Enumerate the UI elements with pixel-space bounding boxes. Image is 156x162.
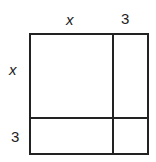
side-label-x: x [9, 62, 17, 77]
side-label-3: 3 [11, 129, 19, 144]
outer-square [29, 33, 149, 155]
top-label-x: x [66, 12, 74, 27]
vertical-divider [112, 33, 114, 155]
horizontal-divider [29, 117, 149, 119]
top-label-3: 3 [121, 11, 129, 26]
